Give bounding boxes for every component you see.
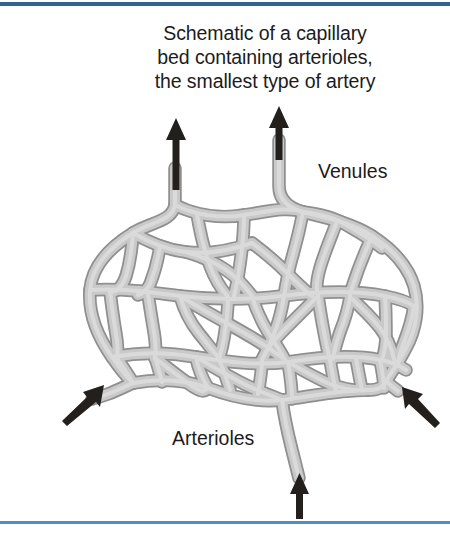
caption-line-2: bed containing arterioles, [100, 45, 430, 69]
figure-panel: Schematic of a capillary bed containing … [0, 0, 450, 541]
bottom-rule [0, 521, 450, 524]
caption-line-3: the smallest type of artery [100, 69, 430, 93]
caption-line-1: Schematic of a capillary [100, 21, 430, 45]
label-venules: Venules [318, 160, 387, 183]
venule-right-arrow-up-icon [269, 106, 289, 160]
arteriole-left-arrow-up-right-icon [62, 385, 104, 426]
arteriole-right-arrow-up-left-icon [402, 387, 440, 428]
label-arterioles: Arterioles [172, 427, 254, 450]
figure-caption: Schematic of a capillary bed containing … [100, 21, 430, 93]
